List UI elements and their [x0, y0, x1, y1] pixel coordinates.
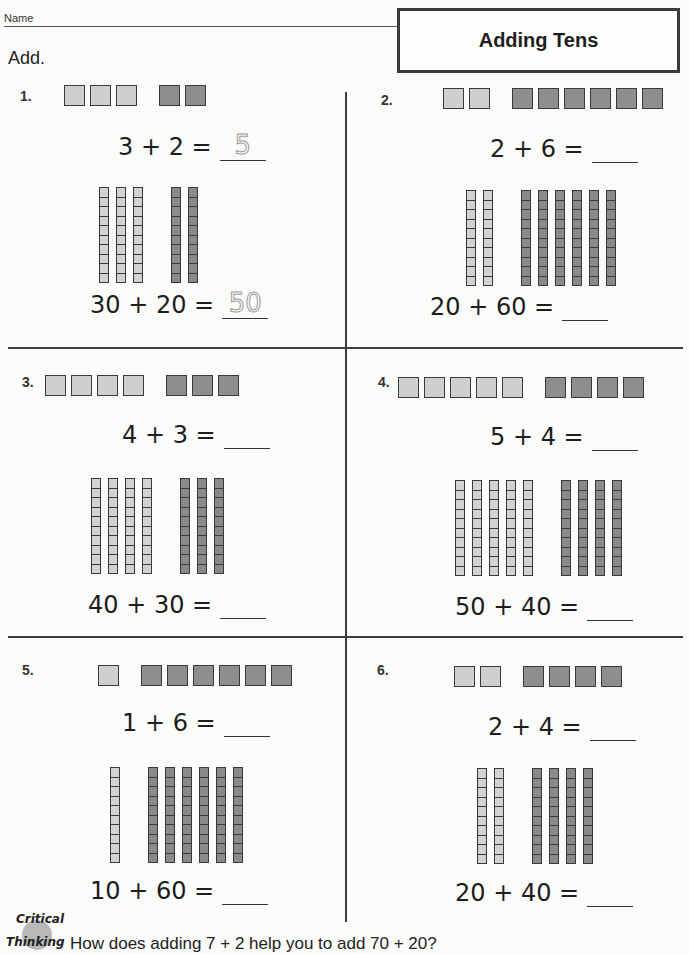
rod-cell	[172, 274, 180, 283]
rod-cell	[181, 508, 189, 518]
ten-rod-dark	[199, 767, 209, 863]
rod-cell	[200, 854, 208, 863]
rod-cell	[573, 267, 581, 277]
unit-block-dark	[616, 88, 637, 109]
rod-cell	[217, 825, 225, 835]
rod-cell	[198, 546, 206, 556]
equation-text: 20 + 60 =	[430, 293, 554, 321]
unit-blocks	[98, 665, 292, 686]
tens-rods	[455, 480, 622, 576]
answer-blank-tens[interactable]	[587, 592, 633, 621]
rod-cell	[149, 787, 157, 797]
rod-cell	[215, 546, 223, 556]
equation-text: 3 + 2 =	[118, 133, 212, 161]
ten-rod-light	[506, 480, 516, 576]
rod-cell	[495, 769, 503, 779]
rod-cell	[215, 565, 223, 574]
rod-cell	[579, 538, 587, 548]
rod-cell	[584, 779, 592, 789]
rod-cell	[100, 198, 108, 208]
rod-cell	[579, 567, 587, 576]
equation-text: 1 + 6 =	[122, 709, 216, 737]
rod-cell	[109, 536, 117, 546]
answer-blank-tens[interactable]	[562, 292, 608, 321]
rod-cell	[189, 236, 197, 246]
rod-cell	[590, 267, 598, 277]
rod-cell	[217, 806, 225, 816]
rod-cell	[584, 788, 592, 798]
unit-block-light	[424, 377, 445, 398]
thinking-label: Thinking	[6, 935, 65, 949]
answer-blank-ones[interactable]	[224, 420, 270, 449]
rod-cell	[456, 491, 464, 501]
spacer	[124, 665, 136, 686]
unit-block-light	[98, 665, 119, 686]
rod-cell	[109, 508, 117, 518]
ones-equation: 2 + 6 =	[490, 134, 638, 163]
answer-blank-tens[interactable]: 50	[222, 290, 268, 319]
rod-cell	[490, 557, 498, 567]
rod-cell	[539, 220, 547, 230]
equation-text: 50 + 40 =	[455, 593, 579, 621]
rod-cell	[607, 277, 615, 286]
answer-blank-ones[interactable]	[224, 708, 270, 737]
answer-blank-ones[interactable]	[592, 134, 638, 163]
unit-block-dark	[141, 665, 162, 686]
rod-cell	[181, 565, 189, 574]
rod-cell	[478, 826, 486, 836]
rod-cell	[484, 201, 492, 211]
tens-rods	[477, 768, 593, 864]
rod-cell	[613, 519, 621, 529]
rod-cell	[607, 267, 615, 277]
name-field[interactable]	[4, 26, 398, 27]
ten-rod-dark	[214, 478, 224, 574]
answer-blank-ones[interactable]	[592, 422, 638, 451]
rod-cell	[478, 845, 486, 855]
rod-cell	[573, 277, 581, 286]
rod-cell	[490, 538, 498, 548]
answer-blank-ones[interactable]: 5	[220, 132, 266, 161]
critical-thinking-label: Critical	[16, 912, 64, 926]
answer-blank-ones[interactable]	[590, 712, 636, 741]
unit-block-dark	[219, 665, 240, 686]
rod-cell	[183, 797, 191, 807]
answer-blank-tens[interactable]	[587, 878, 633, 907]
rod-cell	[92, 565, 100, 574]
rod-cell	[134, 217, 142, 227]
rod-cell	[562, 500, 570, 510]
rod-cell	[183, 806, 191, 816]
rod-cell	[524, 567, 532, 576]
rod-cell	[126, 527, 134, 537]
rod-cell	[149, 778, 157, 788]
rod-cell	[134, 274, 142, 283]
unit-block-dark	[271, 665, 292, 686]
answer-blank-tens[interactable]	[220, 590, 266, 619]
unit-blocks	[398, 377, 644, 398]
unit-block-dark	[601, 666, 622, 687]
rod-cell	[126, 489, 134, 499]
rod-cell	[189, 264, 197, 274]
rod-cell	[234, 844, 242, 854]
rod-cell	[189, 217, 197, 227]
answer-blank-tens[interactable]	[222, 876, 268, 905]
rod-cell	[507, 481, 515, 491]
unit-block-dark	[192, 375, 213, 396]
ten-rod-dark	[165, 767, 175, 863]
rod-cell	[126, 536, 134, 546]
rod-cell	[613, 529, 621, 539]
rod-cell	[613, 538, 621, 548]
rod-cell	[584, 826, 592, 836]
rod-cell	[100, 255, 108, 265]
rod-cell	[490, 548, 498, 558]
rod-cell	[473, 567, 481, 576]
unit-block-dark	[575, 666, 596, 687]
rod-cell	[181, 498, 189, 508]
unit-block-light	[443, 88, 464, 109]
rod-cell	[590, 239, 598, 249]
ten-rod-light	[489, 480, 499, 576]
rod-cell	[198, 508, 206, 518]
critical-thinking-question: How does adding 7 + 2 help you to add 70…	[70, 934, 437, 954]
rod-cell	[234, 797, 242, 807]
rod-cell	[562, 557, 570, 567]
rod-cell	[134, 188, 142, 198]
